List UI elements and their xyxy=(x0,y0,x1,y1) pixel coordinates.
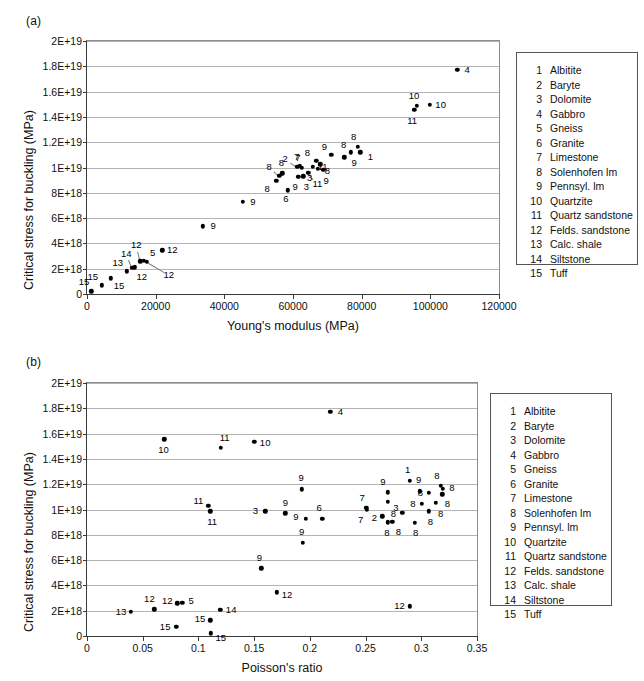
data-point-label: 10 xyxy=(158,446,169,456)
y-axis-tick-label: 1.4E+19 xyxy=(43,454,82,465)
data-point xyxy=(301,174,305,178)
data-point-label: 6 xyxy=(316,503,321,513)
legend-item-label: Granite xyxy=(524,477,558,492)
data-point-label: 12 xyxy=(394,602,405,612)
data-point-label: 15 xyxy=(195,614,206,624)
legend-item: 15Tuff xyxy=(499,607,605,622)
x-axis-tick xyxy=(499,294,500,299)
data-point-label: 8 xyxy=(267,162,272,172)
y-axis-tick-label: 0 xyxy=(76,289,82,300)
legend-item-number: 7 xyxy=(499,491,516,506)
data-point-label: 3 xyxy=(304,183,309,193)
data-point xyxy=(427,103,431,107)
legend-item-number: 5 xyxy=(499,462,516,477)
legend-box-b: 1Albitite2Baryte3Dolomite4Gabbro5Gneiss6… xyxy=(490,393,612,606)
gridline-horizontal xyxy=(87,243,499,244)
legend-list-a: 1Albitite2Baryte3Dolomite4Gabbro5Gneiss6… xyxy=(517,53,637,291)
data-point xyxy=(348,150,352,154)
data-point-label: 10 xyxy=(260,438,271,448)
legend-item-label: Solenhofen lm xyxy=(524,506,591,521)
y-axis-tick xyxy=(83,535,87,536)
data-point xyxy=(259,566,263,570)
data-point xyxy=(342,155,346,159)
y-axis-tick-label: 8E+18 xyxy=(51,530,82,541)
legend-item-label: Limestone xyxy=(550,150,598,165)
legend-item-label: Quartzite xyxy=(524,535,567,550)
gridline-horizontal xyxy=(87,560,477,561)
data-point-label: 7 xyxy=(295,153,300,163)
legend-item-label: Felds. sandstone xyxy=(524,564,604,579)
y-axis-tick-label: 1E+19 xyxy=(51,504,82,515)
data-point xyxy=(263,509,267,513)
plot-area-a: 02E+184E+186E+188E+181E+191.2E+191.4E+19… xyxy=(86,40,500,295)
legend-item-number: 4 xyxy=(525,107,542,122)
y-axis-tick-label: 1.4E+19 xyxy=(43,112,82,123)
legend-item-number: 1 xyxy=(499,404,516,419)
y-axis-tick-label: 1.8E+19 xyxy=(43,403,82,414)
legend-item-label: Baryte xyxy=(524,419,554,434)
legend-item-label: Siltstone xyxy=(550,252,590,267)
legend-item-number: 8 xyxy=(499,506,516,521)
legend-item-number: 3 xyxy=(499,433,516,448)
data-point-label: 9 xyxy=(292,182,297,192)
data-point xyxy=(241,199,245,203)
gridline-horizontal xyxy=(87,585,477,586)
data-point-label: 4 xyxy=(338,407,343,417)
data-point-label: 10 xyxy=(409,91,420,101)
data-point-label: 14 xyxy=(121,249,132,259)
data-point-label: 9 xyxy=(298,474,303,484)
legend-item: 14Siltstone xyxy=(525,252,631,267)
data-point xyxy=(286,188,290,192)
data-point xyxy=(125,269,129,273)
data-point xyxy=(174,624,178,628)
y-axis-tick xyxy=(83,193,87,194)
data-point-label: 2 xyxy=(372,514,377,524)
legend-item-label: Quartz sandstone xyxy=(524,549,607,564)
data-point-label: 12 xyxy=(144,595,155,605)
legend-item-label: Dolomite xyxy=(524,433,565,448)
data-point xyxy=(380,514,384,518)
data-point xyxy=(412,108,416,112)
x-axis-tick xyxy=(430,294,431,299)
data-point xyxy=(208,618,212,622)
x-axis-tick-label: 20000 xyxy=(141,301,170,312)
data-point xyxy=(162,437,166,441)
legend-item-label: Felds. sandstone xyxy=(550,223,630,238)
legend-item-number: 10 xyxy=(499,535,516,550)
legend-item: 8Solenhofen lm xyxy=(499,506,605,521)
legend-item-label: Calc. shale xyxy=(550,237,602,252)
data-point-label: 8 xyxy=(265,184,270,194)
data-point xyxy=(440,492,444,496)
x-axis-tick xyxy=(366,636,367,641)
x-axis-tick-label: 0 xyxy=(84,301,90,312)
data-point-label: 15 xyxy=(215,633,226,643)
data-point-label: 9 xyxy=(257,554,262,564)
y-axis-tick xyxy=(83,168,87,169)
data-point xyxy=(407,479,411,483)
data-point xyxy=(386,490,390,494)
y-axis-tick-label: 6E+18 xyxy=(51,213,82,224)
legend-item-label: Limestone xyxy=(524,491,572,506)
legend-item-number: 12 xyxy=(499,564,516,579)
data-point xyxy=(201,224,205,228)
data-point-label: 9 xyxy=(210,222,215,232)
legend-item: 12Felds. sandstone xyxy=(499,564,605,579)
data-point-label: 8 xyxy=(341,141,346,151)
legend-item: 12Felds. sandstone xyxy=(525,223,631,238)
data-point xyxy=(274,179,278,183)
y-axis-tick xyxy=(83,611,87,612)
x-axis-tick-label: 0.3 xyxy=(414,643,429,654)
legend-item-label: Quartz sandstone xyxy=(550,208,633,223)
data-point-leader-line xyxy=(146,262,163,273)
data-point-label: 11 xyxy=(407,116,417,126)
data-point xyxy=(386,500,390,504)
panel-b-label: (b) xyxy=(26,355,41,369)
y-axis-tick xyxy=(83,510,87,511)
legend-item-label: Gneiss xyxy=(524,462,557,477)
data-point xyxy=(426,509,430,513)
y-axis-tick-label: 2E+18 xyxy=(51,605,82,616)
data-point-label: 8 xyxy=(391,509,396,519)
data-point-label: 4 xyxy=(464,65,469,75)
data-point-label: 9 xyxy=(250,197,255,207)
y-axis-tick xyxy=(83,484,87,485)
